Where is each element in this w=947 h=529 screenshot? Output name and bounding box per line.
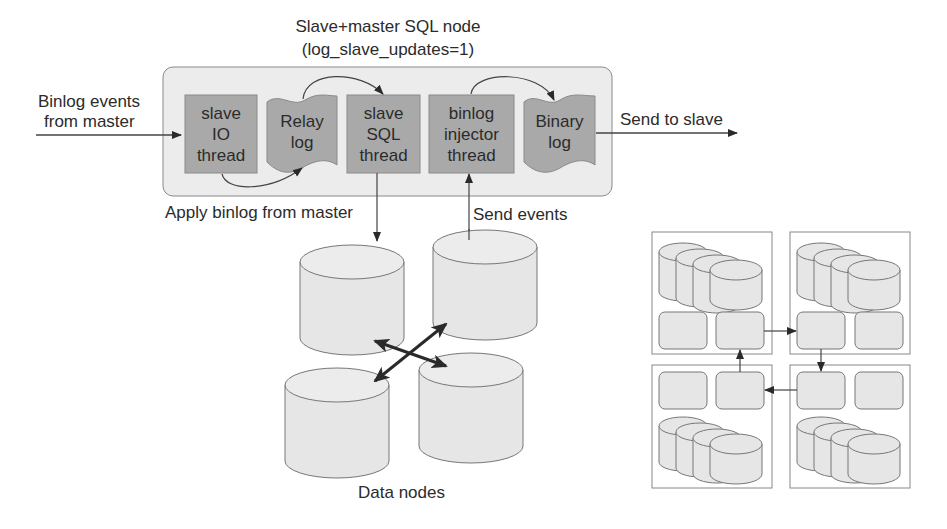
binlog-injector-thread-label: binlog injector thread <box>429 95 514 173</box>
send-events-label: Send events <box>473 205 568 225</box>
relay-log-label: Relay log <box>267 100 337 164</box>
cluster-panel-bottom-left <box>652 365 772 488</box>
data-nodes-label: Data nodes <box>358 483 445 503</box>
binary-log-label: Binary log <box>524 100 595 164</box>
cluster-panel-bottom-right <box>790 365 910 488</box>
panel-title-line2: (log_slave_updates=1) <box>238 40 538 60</box>
apply-binlog-label: Apply binlog from master <box>165 203 353 223</box>
slave-io-thread-label: slave IO thread <box>185 95 257 173</box>
panel-title-line1: Slave+master SQL node <box>238 17 538 37</box>
data-node-cylinder-3 <box>285 368 389 478</box>
data-node-cylinder-1 <box>300 245 404 355</box>
cluster-panel-top-left <box>652 232 772 354</box>
data-node-cylinder-2 <box>433 230 537 340</box>
diagram-canvas <box>0 0 947 529</box>
output-label: Send to slave <box>620 110 723 130</box>
slave-sql-thread-label: slave SQL thread <box>347 95 420 173</box>
data-node-cylinder-4 <box>419 353 523 463</box>
cluster-panel-top-right <box>790 232 910 354</box>
input-label-line2: from master <box>44 112 135 132</box>
input-label-line1: Binlog events <box>38 92 140 112</box>
